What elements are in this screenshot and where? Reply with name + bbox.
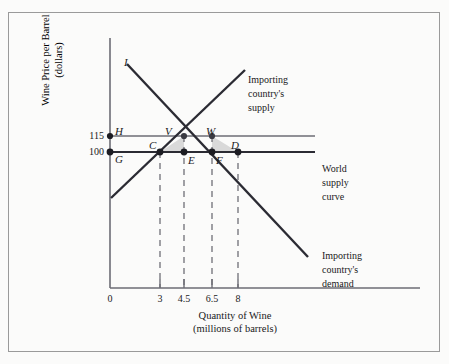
x-tick-label-3: 3	[151, 293, 169, 305]
y-axis-title: Wine Price per Barrel (dollars)	[40, 0, 56, 120]
point-marker-G	[107, 149, 114, 156]
point-label-H: H	[115, 125, 123, 138]
x-tick-label-4-5: 4.5	[173, 293, 195, 305]
x-tick-label-6-5: 6.5	[201, 293, 223, 305]
point-marker-C	[157, 149, 164, 156]
point-label-C: C	[149, 139, 156, 152]
point-marker-V	[181, 133, 187, 139]
x-axis-title-line2: (millions of barrels)	[155, 323, 315, 335]
annotation-demand-line3: demand	[322, 278, 354, 290]
y-tick-label-115: 115	[80, 130, 104, 142]
annotation-supply-line3: supply	[248, 102, 275, 114]
annotation-demand-line2: country's	[322, 264, 358, 276]
point-label-V: V	[165, 125, 172, 138]
importing-country-supply-curve	[111, 70, 245, 198]
annotation-supply-line1: Importing	[248, 74, 288, 86]
point-label-I: I	[124, 56, 128, 69]
point-label-D: D	[231, 139, 239, 152]
annotation-demand-line1: Importing	[322, 250, 362, 262]
point-label-W: W	[206, 125, 215, 138]
annotation-world-supply-line2: supply	[322, 177, 349, 189]
point-marker-H	[107, 133, 113, 139]
x-tick-label-0: 0	[101, 293, 119, 305]
point-marker-E	[181, 149, 188, 156]
y-axis-title-line2: (dollars)	[53, 0, 66, 120]
annotation-world-supply-line3: curve	[322, 191, 344, 203]
figure-root: Wine Price per Barrel (dollars) 115 100 …	[0, 0, 449, 364]
y-tick-label-100: 100	[80, 146, 104, 158]
annotation-supply-line2: country's	[248, 88, 284, 100]
point-marker-F	[209, 149, 216, 156]
annotation-world-supply-line1: World	[322, 163, 347, 175]
point-label-G: G	[115, 153, 123, 166]
x-tick-label-8: 8	[229, 293, 247, 305]
x-axis-title-line1: Quantity of Wine	[155, 310, 315, 322]
y-axis-title-line1: Wine Price per Barrel	[40, 0, 53, 120]
point-label-E: E	[188, 154, 195, 167]
point-label-F: F	[216, 154, 223, 167]
